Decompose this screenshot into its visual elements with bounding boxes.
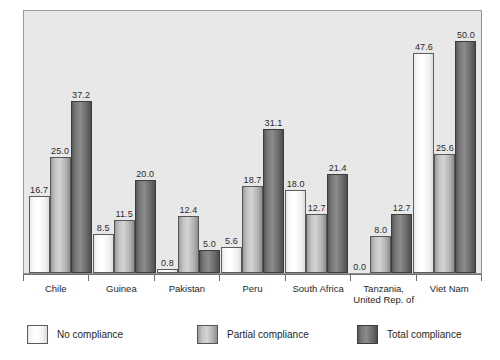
bar-group: 8.5 11.5 20.0 <box>92 11 156 273</box>
bar-no-compliance[interactable]: 16.7 <box>29 196 50 273</box>
bar-slot: 18.0 <box>285 11 306 273</box>
bar-slot: 25.6 <box>434 11 455 273</box>
x-axis-tick <box>416 274 417 281</box>
x-axis-tick <box>350 274 351 281</box>
category-label-line1: Viet Nam <box>430 283 469 294</box>
category-label-line2: United Rep. of <box>351 294 417 305</box>
bar-no-compliance[interactable]: 47.6 <box>413 53 434 273</box>
bar-value-label: 12.4 <box>179 205 197 215</box>
legend-label: Partial compliance <box>227 329 309 340</box>
bar-total-compliance[interactable]: 21.4 <box>327 174 348 273</box>
bar-slot: 0.0 <box>349 11 370 273</box>
bar-value-label: 25.0 <box>51 146 69 156</box>
bar-total-compliance[interactable]: 5.0 <box>199 250 220 273</box>
plot-area: 16.7 25.0 37.2 8.5 <box>23 10 482 274</box>
bar-slot: 31.1 <box>263 11 284 273</box>
bar-slot: 47.6 <box>413 11 434 273</box>
bar-group: 18.0 12.7 21.4 <box>285 11 349 273</box>
bar-value-label: 21.4 <box>329 163 347 173</box>
category-label: Guinea <box>89 283 155 305</box>
bar-value-label: 0.0 <box>353 262 366 272</box>
x-axis-tick <box>154 274 155 281</box>
x-axis-tick <box>219 274 220 281</box>
bar-total-compliance[interactable]: 37.2 <box>71 101 92 273</box>
x-axis-ticks <box>23 274 482 282</box>
x-axis-tick <box>88 274 89 281</box>
bar-group: 0.0 8.0 12.7 <box>349 11 413 273</box>
bar-slot: 16.7 <box>29 11 50 273</box>
legend-item-total-compliance[interactable]: Total compliance <box>357 325 477 344</box>
bar-group: 5.6 18.7 31.1 <box>220 11 284 273</box>
bar-chart: 16.7 25.0 37.2 8.5 <box>0 0 500 360</box>
category-label: Peru <box>220 283 286 305</box>
legend-swatch-icon <box>27 325 48 344</box>
category-label: South Africa <box>285 283 351 305</box>
bar-slot: 11.5 <box>114 11 135 273</box>
bar-slot: 5.0 <box>199 11 220 273</box>
bar-slot: 8.0 <box>370 11 391 273</box>
legend-label: No compliance <box>57 329 123 340</box>
bar-value-label: 31.1 <box>265 118 283 128</box>
category-label: Tanzania, United Rep. of <box>351 283 417 305</box>
bar-value-label: 16.7 <box>30 185 48 195</box>
legend-label: Total compliance <box>387 329 461 340</box>
legend-item-partial-compliance[interactable]: Partial compliance <box>197 325 357 344</box>
legend-item-no-compliance[interactable]: No compliance <box>27 325 197 344</box>
bar-value-label: 8.0 <box>374 225 387 235</box>
bar-group: 16.7 25.0 37.2 <box>28 11 92 273</box>
bars-container: 16.7 25.0 37.2 8.5 <box>24 11 481 273</box>
x-axis-tick <box>23 274 24 281</box>
bar-slot: 25.0 <box>50 11 71 273</box>
bar-slot: 20.0 <box>135 11 156 273</box>
bar-total-compliance[interactable]: 50.0 <box>455 41 476 273</box>
bar-slot: 12.7 <box>306 11 327 273</box>
category-label-line1: Peru <box>242 283 262 294</box>
bar-no-compliance[interactable]: 18.0 <box>285 190 306 273</box>
category-label-line1: Chile <box>45 283 67 294</box>
bar-total-compliance[interactable]: 12.7 <box>391 214 412 273</box>
bar-partial-compliance[interactable]: 11.5 <box>114 220 135 273</box>
bar-slot: 50.0 <box>455 11 476 273</box>
bar-slot: 12.7 <box>391 11 412 273</box>
bar-value-label: 18.0 <box>287 179 305 189</box>
bar-partial-compliance[interactable]: 8.0 <box>370 236 391 273</box>
bar-partial-compliance[interactable]: 18.7 <box>242 186 263 273</box>
chart-legend: No compliance Partial compliance Total c… <box>23 325 482 344</box>
bar-value-label: 0.8 <box>161 258 174 268</box>
bar-no-compliance[interactable]: 0.8 <box>157 269 178 273</box>
bar-value-label: 25.6 <box>436 143 454 153</box>
bar-value-label: 20.0 <box>136 169 154 179</box>
bar-no-compliance[interactable]: 8.5 <box>93 234 114 273</box>
bar-slot: 21.4 <box>327 11 348 273</box>
legend-swatch-icon <box>357 325 378 344</box>
bar-partial-compliance[interactable]: 12.4 <box>178 216 199 273</box>
bar-value-label: 8.5 <box>97 223 110 233</box>
bar-value-label: 12.7 <box>308 203 326 213</box>
bar-partial-compliance[interactable]: 25.0 <box>50 157 71 273</box>
bar-value-label: 12.7 <box>393 203 411 213</box>
bar-value-label: 5.6 <box>225 236 238 246</box>
bar-partial-compliance[interactable]: 12.7 <box>306 214 327 273</box>
bar-total-compliance[interactable]: 20.0 <box>135 180 156 273</box>
bar-slot: 8.5 <box>93 11 114 273</box>
bar-value-label: 11.5 <box>116 209 133 219</box>
category-label-line1: Guinea <box>106 283 137 294</box>
bar-slot: 37.2 <box>71 11 92 273</box>
category-label-line1: Pakistan <box>169 283 205 294</box>
bar-total-compliance[interactable]: 31.1 <box>263 129 284 273</box>
bar-partial-compliance[interactable]: 25.6 <box>434 154 455 273</box>
bar-slot: 18.7 <box>242 11 263 273</box>
x-axis-tick <box>285 274 286 281</box>
bar-slot: 12.4 <box>178 11 199 273</box>
bar-group: 0.8 12.4 5.0 <box>156 11 220 273</box>
bar-no-compliance[interactable]: 5.6 <box>221 247 242 273</box>
x-axis-tick <box>481 274 482 281</box>
bar-value-label: 5.0 <box>203 239 216 249</box>
category-label-line1: South Africa <box>292 283 343 294</box>
category-label: Chile <box>23 283 89 305</box>
category-label: Viet Nam <box>416 283 482 305</box>
bar-value-label: 18.7 <box>244 175 262 185</box>
bar-value-label: 50.0 <box>457 30 475 40</box>
legend-swatch-icon <box>197 325 218 344</box>
category-label-line1: Tanzania, <box>363 283 404 294</box>
